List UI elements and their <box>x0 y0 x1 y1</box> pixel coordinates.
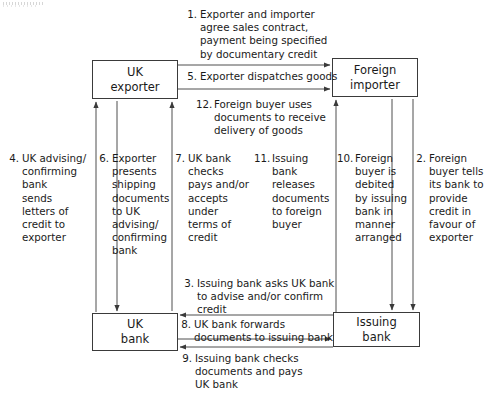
step-7-number: 7. <box>174 152 188 165</box>
node-foreign-importer-line1: Foreign <box>354 63 397 78</box>
step-11-number: 11. <box>254 152 272 165</box>
step-8-text: UK bank forwards documents to issuing ba… <box>194 318 333 344</box>
node-foreign-importer: Foreign importer <box>332 58 418 97</box>
documentary-credit-flow-diagram: UK exporter Foreign importer UK bank Iss… <box>0 0 490 401</box>
step-1-text: Exporter and importer agree sales contra… <box>200 8 327 61</box>
step-5-text: Exporter dispatches goods <box>200 70 337 83</box>
step-label-3: 3. Issuing bank asks UK bank to advise a… <box>183 277 334 317</box>
step-label-6: 6. Exporter presents shipping documents … <box>98 152 169 258</box>
step-9-number: 9. <box>181 352 195 365</box>
step-6-text: Exporter presents shipping documents to … <box>112 152 169 258</box>
step-10-text: Foreign buyer is debited by issuing bank… <box>355 152 407 244</box>
step-1-number: 1. <box>186 8 200 21</box>
step-3-number: 3. <box>183 277 197 290</box>
node-issuing-bank: Issuing bank <box>333 312 420 347</box>
step-11-text: Issuing bank releases documents to forei… <box>272 152 329 231</box>
step-4-text: UK advising/ confirming bank sends lette… <box>22 152 86 244</box>
node-uk-exporter: UK exporter <box>92 60 178 99</box>
step-3-text: Issuing bank asks UK bank to advise and/… <box>197 277 334 317</box>
step-label-2: 2. Foreign buyer tells its bank to provi… <box>415 152 483 244</box>
step-label-8: 8. UK bank forwards documents to issuing… <box>180 318 333 344</box>
node-uk-bank-line1: UK <box>127 317 143 332</box>
step-4-number: 4. <box>8 152 22 165</box>
node-uk-bank-line2: bank <box>121 332 149 347</box>
step-label-7: 7. UK bank checks pays and/or accepts un… <box>174 152 249 244</box>
node-uk-bank: UK bank <box>92 313 178 351</box>
step-label-5: 5. Exporter dispatches goods <box>186 70 337 83</box>
step-label-11: 11. Issuing bank releases documents to f… <box>254 152 329 231</box>
step-label-9: 9. Issuing bank checks documents and pay… <box>181 352 303 392</box>
step-7-text: UK bank checks pays and/or accepts under… <box>188 152 249 244</box>
step-label-12: 12. Foreign buyer uses documents to rece… <box>196 98 326 138</box>
step-12-number: 12. <box>196 98 214 111</box>
step-label-10: 10. Foreign buyer is debited by issuing … <box>337 152 407 244</box>
node-uk-exporter-line2: exporter <box>110 80 159 95</box>
step-label-1: 1. Exporter and importer agree sales con… <box>186 8 327 61</box>
step-label-4: 4. UK advising/ confirming bank sends le… <box>8 152 86 244</box>
step-10-number: 10. <box>337 152 355 165</box>
node-issuing-bank-line2: bank <box>362 330 390 345</box>
step-2-number: 2. <box>415 152 429 165</box>
step-8-number: 8. <box>180 318 194 331</box>
node-uk-exporter-line1: UK <box>127 65 143 80</box>
step-9-text: Issuing bank checks documents and pays U… <box>195 352 303 392</box>
node-issuing-bank-line1: Issuing <box>356 315 396 330</box>
step-5-number: 5. <box>186 70 200 83</box>
step-2-text: Foreign buyer tells its bank to provide … <box>429 152 483 244</box>
node-foreign-importer-line2: importer <box>350 78 400 93</box>
step-6-number: 6. <box>98 152 112 165</box>
step-12-text: Foreign buyer uses documents to receive … <box>214 98 326 138</box>
